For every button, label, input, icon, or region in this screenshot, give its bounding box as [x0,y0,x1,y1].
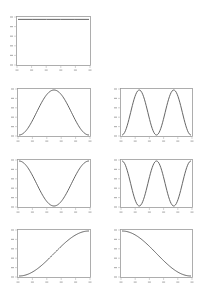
x-tick-label [162,282,165,283]
y-tick-label [114,98,117,99]
y-tick-label [11,206,14,207]
plot-frame [18,89,91,137]
y-tick-label [10,64,13,65]
y-tick-label [11,239,14,240]
x-tick-label [120,141,123,142]
x-tick-label [17,282,20,283]
x-tick-label [45,212,48,213]
x-tick-label [176,212,179,213]
y-tick-label [11,276,14,277]
y-tick-label [11,88,14,89]
y-tick-label [10,45,13,46]
y-tick-label [11,98,14,99]
line-plot-5 [120,159,193,208]
x-tick-label [17,141,20,142]
y-tick-label [11,169,14,170]
x-tick-label [31,282,34,283]
y-tick-label [11,126,14,127]
y-tick-label [11,135,14,136]
y-tick-label [114,267,117,268]
y-tick-label [11,107,14,108]
line-plot-6 [17,229,91,278]
x-tick-label [89,70,92,71]
y-tick-label [11,267,14,268]
y-tick-label [114,258,117,259]
y-tick-label [114,117,117,118]
x-tick-label [74,70,77,71]
data-line [122,90,191,135]
y-tick-label [114,188,117,189]
x-tick-label [60,141,63,142]
x-tick-label [162,212,165,213]
x-tick-label [134,212,137,213]
plot-frame [121,160,193,208]
y-tick-label [11,229,14,230]
x-tick-label [89,282,92,283]
y-tick-label [114,197,117,198]
y-tick-label [11,159,14,160]
y-tick-label [114,126,117,127]
x-tick-label [162,141,165,142]
x-tick-label [176,282,179,283]
x-tick-label [74,141,77,142]
x-tick-label [191,282,194,283]
y-tick-label [114,135,117,136]
y-tick-label [114,239,117,240]
x-tick-label [89,141,92,142]
y-tick-label [11,248,14,249]
plot-frame [18,160,91,208]
y-tick-label [114,248,117,249]
x-tick-label [120,282,123,283]
x-tick-label [120,212,123,213]
y-tick-label [114,169,117,170]
x-tick-label [148,282,151,283]
line-plot-3 [120,88,193,137]
data-line [19,161,89,206]
y-tick-label [11,258,14,259]
x-tick-label [74,212,77,213]
data-line [19,90,89,135]
y-tick-label [114,107,117,108]
y-tick-label [11,188,14,189]
line-plot-1 [16,16,91,66]
x-tick-label [45,70,48,71]
y-tick-label [10,26,13,27]
y-tick-label [114,159,117,160]
x-tick-label [74,282,77,283]
data-line [19,231,89,276]
data-line [122,231,191,276]
y-tick-label [10,16,13,17]
line-plot-4 [17,159,91,208]
x-tick-label [16,70,19,71]
x-tick-label [148,212,151,213]
x-tick-label [60,282,63,283]
y-tick-label [11,178,14,179]
y-tick-label [114,178,117,179]
plot-frame [121,89,193,137]
y-tick-label [10,36,13,37]
y-tick-label [10,55,13,56]
x-tick-label [30,70,33,71]
x-tick-label [89,212,92,213]
x-tick-label [45,282,48,283]
y-tick-label [114,276,117,277]
y-tick-label [114,229,117,230]
x-tick-label [59,70,62,71]
y-tick-label [11,197,14,198]
x-tick-label [17,212,20,213]
x-tick-label [60,212,63,213]
y-tick-label [114,206,117,207]
x-tick-label [191,212,194,213]
x-tick-label [134,141,137,142]
x-tick-label [31,212,34,213]
line-plot-7 [120,229,193,278]
y-tick-label [11,117,14,118]
line-plot-2 [17,88,91,137]
x-tick-label [134,282,137,283]
x-tick-label [31,141,34,142]
x-tick-label [45,141,48,142]
data-line [122,161,191,206]
y-tick-label [114,88,117,89]
x-tick-label [176,141,179,142]
x-tick-label [148,141,151,142]
